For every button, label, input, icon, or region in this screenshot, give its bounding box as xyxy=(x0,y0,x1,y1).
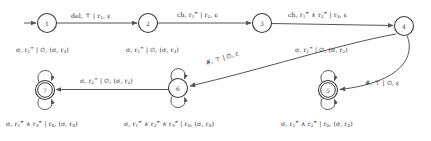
transition-label-2-to-3: ch, r1≠ | r2, ε xyxy=(177,12,218,18)
state-node-2[interactable]: 2 xyxy=(139,14,158,33)
self-loop-6-bottom xyxy=(171,97,185,108)
state-node-7[interactable]: 7 xyxy=(36,81,55,100)
state-node-1[interactable]: 1 xyxy=(38,14,57,33)
state-label-2: 2 xyxy=(146,20,150,27)
self-loop-label-6-top: σ, r1= | ∅, (σ, r3) xyxy=(126,47,179,53)
self-loop-5-bottom xyxy=(321,99,335,110)
transition-label-6-to-7: σ, r2= | ∅, (σ, r2) xyxy=(80,78,133,84)
self-loop-label-7-top: σ, r1= | ∅, (σ, r3) xyxy=(16,47,69,53)
state-node-4[interactable]: 4 xyxy=(395,17,414,36)
state-label-1: 1 xyxy=(45,20,49,27)
state-label-6: 6 xyxy=(176,85,180,92)
state-label-4: 4 xyxy=(402,23,406,30)
transition-label-1-to-2: del, ⊤ | r1, ε xyxy=(71,13,111,19)
self-loop-label-5-bottom: σ, r1≠ ∧ r2≠ | r0, (σ, r0) xyxy=(281,121,353,127)
transition-label-4-to-5: #, ⊤ | ∅, ε xyxy=(365,80,399,86)
state-node-6[interactable]: 6 xyxy=(169,79,188,98)
self-loop-label-7-bottom: σ, r1≠ ∧ r3≠ | r0, (σ, r0) xyxy=(6,121,78,127)
state-label-5: 5 xyxy=(326,87,330,94)
state-node-5[interactable]: 5 xyxy=(319,81,338,100)
self-loop-7-bottom xyxy=(38,99,52,110)
transition-3-to-4 xyxy=(272,24,394,26)
state-label-3: 3 xyxy=(260,20,264,27)
transition-label-3-to-4: ch, r1≠ ∧ r2≠ | r3, ε xyxy=(288,12,347,18)
state-node-3[interactable]: 3 xyxy=(253,14,272,33)
self-loop-label-6-bottom: σ, r1≠ ∧ r2≠ ∧ r3≠ | r0, (σ, r0) xyxy=(124,121,214,127)
self-loop-label-5-top: σ, r1= | ∅, (σ, r2) xyxy=(295,47,348,53)
state-label-7: 7 xyxy=(43,87,47,94)
fsm-diagram-canvas: 1 2 3 4 5 6 7 del, ⊤ | r1, ε ch xyxy=(0,0,431,141)
